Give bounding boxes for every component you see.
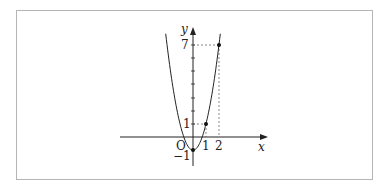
y-tick-1: 1 [183, 117, 191, 131]
y-tick-minus1: −1 [173, 149, 191, 163]
y-tick-7: 7 [181, 38, 189, 52]
y-axis-label: y [180, 22, 188, 36]
point-2-7 [217, 43, 221, 47]
x-axis-label: x [258, 140, 265, 154]
y-axis-arrow-icon [190, 27, 196, 35]
x-tick-2: 2 [215, 139, 223, 153]
point-vertex [191, 148, 195, 152]
point-1-1 [204, 122, 208, 126]
x-tick-1: 1 [202, 139, 210, 153]
parabola-chart: y x O 1 2 −1 1 7 [0, 0, 389, 191]
